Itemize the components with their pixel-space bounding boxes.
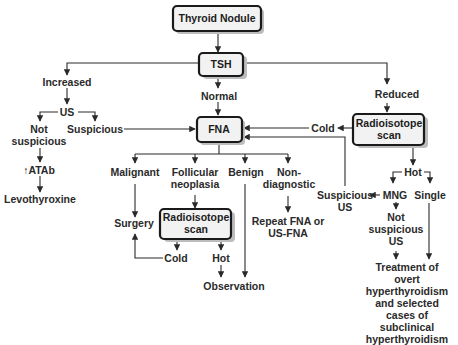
arrow-tsh-to-reduced: [242, 63, 387, 84]
label-cold-right: Cold: [311, 122, 334, 134]
label-suspicious-us-2: US: [338, 201, 353, 213]
box-radioisotope-scan-mid: Radioisotope scan: [160, 209, 235, 242]
label-mng: MNG: [383, 189, 408, 201]
arrow-tsh-to-increased: [67, 63, 200, 75]
label-observation: Observation: [203, 280, 264, 292]
label-not-suspicious-us-2: suspicious: [369, 223, 424, 235]
label-increased: Increased: [42, 76, 91, 88]
label-hot-right: Hot: [404, 166, 422, 178]
label-reduced: Reduced: [375, 88, 419, 100]
box-thyroid-nodule: Thyroid Nodule: [173, 6, 264, 34]
box-label-radioisotope-mid-2: scan: [184, 223, 208, 235]
label-treatment-4: and selected: [375, 297, 439, 309]
box-label-radioisotope-right-2: scan: [377, 129, 401, 141]
label-treatment-3: hyperthyroidism: [366, 285, 448, 297]
label-surgery: Surgery: [114, 217, 154, 229]
label-suspicious: Suspicious: [67, 123, 123, 135]
label-malignant: Malignant: [111, 166, 161, 178]
box-label-fna: FNA: [208, 123, 230, 135]
label-cold-mid: Cold: [164, 252, 187, 264]
label-follicular-2: neoplasia: [171, 178, 220, 190]
label-repeat-1: Repeat FNA or: [252, 215, 325, 227]
box-label-thyroid-nodule: Thyroid Nodule: [179, 12, 256, 24]
thyroid-nodule-flowchart: Thyroid Nodule TSH FNA Radioisotope scan…: [0, 0, 458, 345]
label-nondiagnostic-1: Non-: [277, 166, 301, 178]
box-label-tsh: TSH: [211, 58, 232, 70]
label-benign: Benign: [228, 166, 264, 178]
arrow-us-to-not-suspicious: [40, 112, 58, 121]
label-treatment-7: hyperthyroidism: [366, 333, 448, 345]
box-label-radioisotope-mid-1: Radioisotope: [163, 211, 230, 223]
label-follicular-1: Follicular: [172, 166, 219, 178]
box-label-radioisotope-right-1: Radioisotope: [356, 117, 423, 129]
label-hot-mid: Hot: [212, 252, 230, 264]
label-levothyroxine: Levothyroxine: [4, 193, 76, 205]
label-not-suspicious-us-1: Not: [387, 211, 405, 223]
label-repeat-2: US-FNA: [268, 227, 308, 239]
box-radioisotope-scan-right: Radioisotope scan: [353, 114, 428, 148]
arrow-cold-to-surgery: [135, 234, 163, 258]
arrow-hot-to-mng: [393, 172, 402, 183]
label-treatment-6: subclinical: [380, 321, 434, 333]
label-suspicious-us-1: Suspicious: [317, 189, 373, 201]
label-us: US: [60, 106, 75, 118]
box-tsh: TSH: [199, 53, 247, 79]
label-treatment-1: Treatment of: [375, 261, 439, 273]
label-not-suspicious-us-3: US: [389, 235, 404, 247]
label-not-suspicious-2: suspicious: [12, 135, 67, 147]
arrow-us-to-suspicious: [78, 112, 95, 121]
label-nondiagnostic-2: diagnostic: [263, 178, 316, 190]
label-treatment-5: cases of: [386, 309, 429, 321]
arrow-hot-to-single: [424, 172, 430, 183]
label-not-suspicious-1: Not: [30, 123, 48, 135]
box-fna: FNA: [197, 117, 245, 145]
label-normal: Normal: [201, 90, 237, 102]
label-atab: ↑ATAb: [23, 164, 55, 176]
label-treatment-2: overt: [394, 273, 420, 285]
label-single: Single: [414, 189, 446, 201]
